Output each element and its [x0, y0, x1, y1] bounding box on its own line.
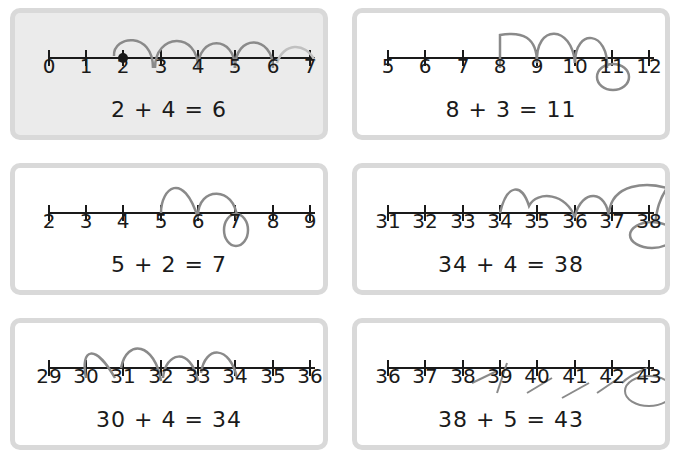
tick-label: 38 [450, 364, 475, 388]
problem-card-1: 0 1 2 3 4 5 6 7 2 + 4 = 6 [10, 8, 328, 140]
tick-label: 35 [524, 209, 549, 233]
tick-label: 33 [450, 209, 475, 233]
tick-label: 38 [636, 209, 661, 233]
tick-label: 7 [229, 209, 242, 233]
tick-label: 2 [117, 54, 130, 78]
tick-label: 2 [43, 209, 56, 233]
problem-card-6: 36 37 38 39 40 41 42 43 38 + 5 = 43 [352, 318, 670, 450]
tick-label: 43 [636, 364, 661, 388]
tick-label: 12 [636, 54, 661, 78]
tick-label: 34 [222, 364, 247, 388]
problem-card-2: 5 6 7 8 9 10 11 12 8 + 3 = 11 [352, 8, 670, 140]
tick-label: 6 [419, 54, 432, 78]
tick-label: 7 [304, 54, 317, 78]
tick-label: 7 [457, 54, 470, 78]
equation: 2 + 4 = 6 [15, 97, 323, 122]
tick-label: 31 [110, 364, 135, 388]
tick-label: 37 [599, 209, 624, 233]
tick-label: 40 [524, 364, 549, 388]
tick-label: 37 [412, 364, 437, 388]
tick-label: 35 [260, 364, 285, 388]
tick-label: 6 [192, 209, 205, 233]
equation: 5 + 2 = 7 [15, 252, 323, 277]
tick-label: 4 [117, 209, 130, 233]
tick-label: 29 [36, 364, 61, 388]
tick-label: 3 [80, 209, 93, 233]
tick-label: 36 [375, 364, 400, 388]
problem-card-5: 29 30 31 32 33 34 35 36 30 + 4 = 34 [10, 318, 328, 450]
equation: 8 + 3 = 11 [357, 97, 665, 122]
tick-label: 10 [562, 54, 587, 78]
equation: 38 + 5 = 43 [357, 407, 665, 432]
tick-label: 6 [267, 54, 280, 78]
tick-label: 30 [73, 364, 98, 388]
tick-label: 42 [599, 364, 624, 388]
tick-label: 34 [487, 209, 512, 233]
tick-label: 5 [229, 54, 242, 78]
tick-label: 36 [562, 209, 587, 233]
tick-label: 39 [487, 364, 512, 388]
tick-label: 32 [148, 364, 173, 388]
equation: 34 + 4 = 38 [357, 252, 665, 277]
tick-label: 8 [494, 54, 507, 78]
tick-label: 3 [155, 54, 168, 78]
equation: 30 + 4 = 34 [15, 407, 323, 432]
tick-label: 9 [531, 54, 544, 78]
tick-label: 5 [382, 54, 395, 78]
tick-label: 36 [297, 364, 322, 388]
tick-label: 41 [562, 364, 587, 388]
tick-label: 8 [267, 209, 280, 233]
problem-card-4: 31 32 33 34 35 36 37 38 34 + 4 = 38 [352, 163, 670, 295]
tick-label: 0 [43, 54, 56, 78]
tick-label: 4 [192, 54, 205, 78]
tick-label: 31 [375, 209, 400, 233]
problem-card-3: 2 3 4 5 6 7 8 9 5 + 2 = 7 [10, 163, 328, 295]
tick-label: 33 [185, 364, 210, 388]
tick-label: 1 [80, 54, 93, 78]
tick-label: 5 [155, 209, 168, 233]
tick-label: 9 [304, 209, 317, 233]
tick-label: 11 [599, 54, 624, 78]
tick-label: 32 [412, 209, 437, 233]
handwritten-jumps [114, 40, 315, 68]
